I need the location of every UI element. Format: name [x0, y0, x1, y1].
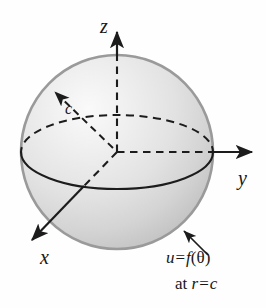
condition-c-value: c [210, 274, 218, 293]
boundary-condition-line-1: u=f(θ) [166, 249, 210, 266]
condition-equals-sign-2: = [198, 274, 210, 293]
x-axis-label: x [40, 247, 49, 267]
condition-at-word: at [175, 274, 187, 293]
figure-container: z y x c u=f(θ) at r=c [0, 0, 266, 308]
condition-u-variable: u [166, 248, 175, 267]
y-axis-label: y [238, 168, 247, 188]
condition-close-paren: ) [205, 248, 211, 267]
z-axis-label: z [100, 16, 108, 36]
condition-theta-symbol: θ [197, 248, 205, 267]
condition-equals-sign-1: = [175, 248, 187, 267]
boundary-condition-line-2: at r=c [175, 275, 217, 292]
radius-c-label: c [65, 101, 72, 117]
